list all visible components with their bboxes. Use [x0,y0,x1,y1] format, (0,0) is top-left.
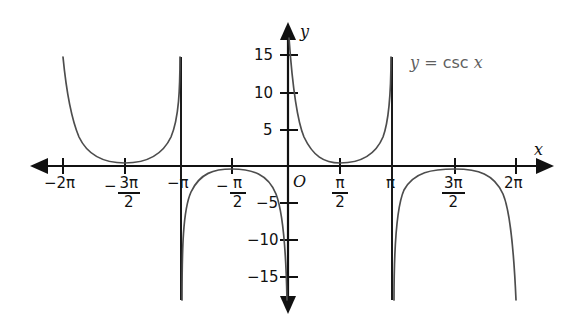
x-axis-left-arrowhead [30,158,48,174]
x-tick-label-neg-3pi-2-numerator: 3π [118,176,141,192]
origin-label: O [293,172,306,191]
x-tick-label-2pi: 2π [504,176,523,191]
x-tick-label-neg-3pi-2-sign: − [104,179,117,194]
csc-branch-zero-to-pi [289,38,391,163]
y-tick-label-neg-5: −5 [256,196,278,211]
x-tick-label-3pi-2-numerator: 3π [442,176,465,192]
x-tick-label-neg-3pi-2: − 3π 2 [104,176,140,210]
legend-argument: x [474,53,483,72]
x-tick-label-pi: π [386,176,395,191]
y-tick-label-neg-15: −15 [247,270,279,285]
graph-canvas [0,0,571,335]
y-tick-label-5: 5 [263,123,273,138]
x-tick-label-pi-2-numerator: π [333,176,346,192]
legend-equals: = [424,53,437,72]
x-tick-label-pi-2-fraction: π 2 [332,176,348,210]
x-tick-label-neg-pi-2-sign: − [216,179,229,194]
y-axis-group [280,22,296,314]
x-tick-label-neg-pi-2-denominator: 2 [231,194,245,210]
x-tick-label-3pi-2: 3π 2 [442,176,465,210]
y-axis-up-arrowhead [280,22,296,40]
y-axis-down-arrowhead [280,296,296,314]
y-tick-label-10: 10 [254,86,273,101]
function-legend-label: y = csc x [410,53,483,72]
x-tick-label-3pi-2-denominator: 2 [447,194,461,210]
csc-curve-group [63,38,516,300]
y-tick-label-neg-10: −10 [247,233,279,248]
x-tick-label-neg-pi-2-numerator: π [231,176,244,192]
x-tick-label-3pi-2-fraction: 3π 2 [442,176,465,210]
x-axis-right-arrowhead [536,158,554,174]
x-tick-label-neg-3pi-2-denominator: 2 [122,194,136,210]
x-tick-label-pi-2: π 2 [332,176,348,210]
csc-function-graph-figure: −2π − 3π 2 −π − π 2 π 2 π 3π 2 2π [0,0,571,335]
x-tick-label-neg-3pi-2-fraction: 3π 2 [118,176,141,210]
x-tick-label-pi-2-denominator: 2 [333,194,347,210]
legend-lhs: y [410,53,419,72]
y-tick-label-15: 15 [254,48,273,63]
csc-branch-neg2pi-to-negpi [63,57,180,163]
legend-function-name: csc [443,53,469,72]
x-tick-label-neg-pi-2: − π 2 [216,176,246,210]
y-axis-label: y [300,22,309,41]
x-tick-label-neg-2pi: −2π [44,176,75,191]
x-tick-label-neg-pi: −π [167,176,189,191]
x-tick-label-neg-pi-2-fraction: π 2 [230,176,246,210]
x-axis-label: x [534,140,543,159]
